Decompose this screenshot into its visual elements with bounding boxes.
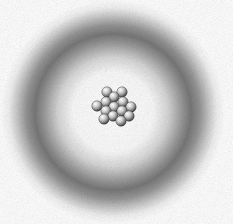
nucleus bbox=[0, 0, 233, 224]
atom-diagram bbox=[0, 0, 233, 224]
nucleon-group bbox=[92, 87, 136, 126]
